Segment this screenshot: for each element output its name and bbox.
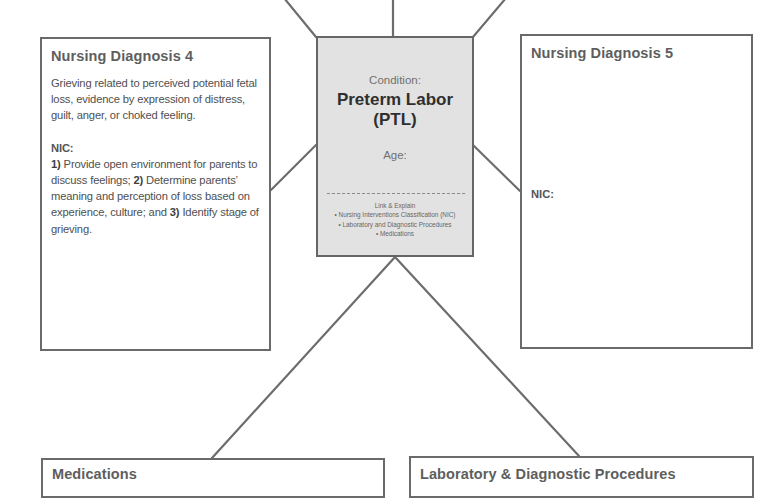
nic-item-1-number: 1)	[51, 158, 61, 170]
nic-label: NIC:	[531, 188, 554, 200]
connector-top-right	[473, 0, 506, 37]
nursing-diagnosis-4-title: Nursing Diagnosis 4	[51, 48, 193, 64]
condition-center-box: Condition: Preterm Labor (PTL) Age: Link…	[316, 36, 474, 257]
nursing-diagnosis-4-text: Grieving related to perceived potential …	[51, 75, 269, 124]
connector-nd5	[473, 145, 520, 191]
condition-name-line-1: Preterm Labor	[318, 90, 472, 110]
connector-nd4	[271, 145, 316, 190]
nursing-diagnosis-5-box: Nursing Diagnosis 5 NIC:	[520, 34, 753, 349]
nic-interventions: 1) Provide open environment for parents …	[51, 156, 269, 237]
nic-item-3-number: 3)	[170, 206, 180, 218]
nic-label: NIC:	[51, 140, 269, 156]
dashed-divider	[327, 193, 465, 194]
connector-top-left	[284, 0, 316, 37]
nursing-diagnosis-5-title: Nursing Diagnosis 5	[531, 45, 673, 61]
medications-title: Medications	[52, 466, 137, 482]
laboratory-procedures-box: Laboratory & Diagnostic Procedures	[409, 456, 754, 498]
condition-name: Preterm Labor (PTL)	[318, 90, 472, 130]
nursing-diagnosis-4-box: Nursing Diagnosis 4 Grieving related to …	[40, 37, 271, 351]
link-item-lab: • Laboratory and Diagnostic Procedures	[318, 220, 472, 229]
condition-label: Condition:	[318, 74, 472, 86]
medications-box: Medications	[41, 458, 385, 498]
nursing-diagnosis-4-body: Grieving related to perceived potential …	[51, 75, 269, 237]
condition-name-line-2: (PTL)	[318, 110, 472, 130]
link-item-medications: • Medications	[318, 229, 472, 238]
link-explain-title: Link & Explain	[318, 201, 472, 210]
link-explain-block: Link & Explain • Nursing Interventions C…	[318, 201, 472, 239]
laboratory-procedures-title: Laboratory & Diagnostic Procedures	[420, 466, 676, 482]
age-label: Age:	[318, 149, 472, 161]
nic-item-2-number: 2)	[134, 174, 144, 186]
link-item-nic: • Nursing Interventions Classification (…	[318, 210, 472, 219]
